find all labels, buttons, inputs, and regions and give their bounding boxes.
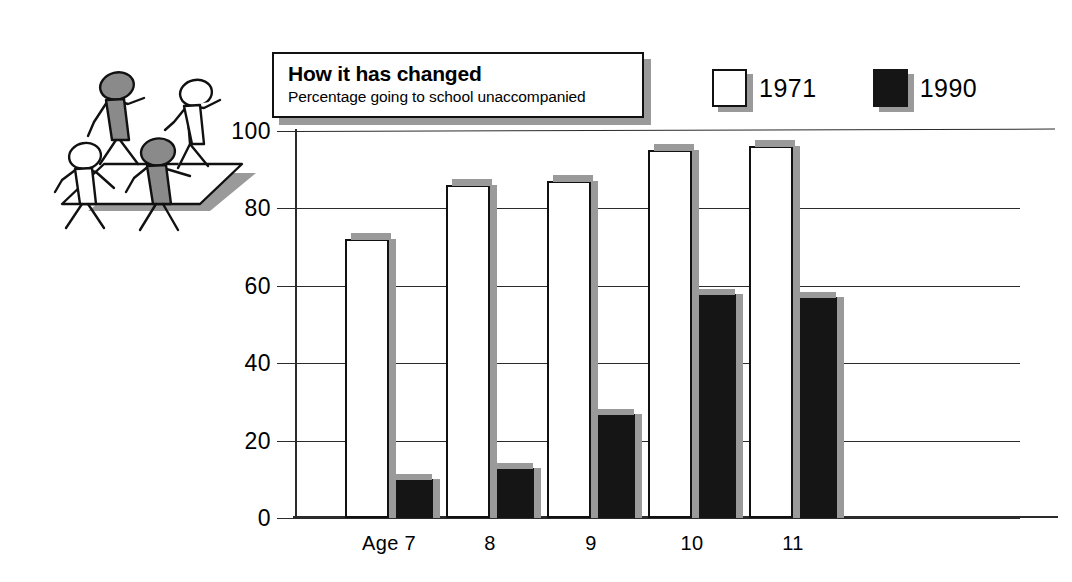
bar-1971-8 <box>446 185 490 518</box>
bar-1990-8 <box>490 468 534 518</box>
bar-1971-age-7 <box>345 239 389 518</box>
legend-swatch-white-square <box>712 69 747 107</box>
y-axis-line <box>295 129 297 519</box>
chart-figure: How it has changed Percentage going to s… <box>0 0 1072 582</box>
chart-subtitle: Percentage going to school unaccompanied <box>288 86 628 107</box>
legend: 1971 1990 <box>712 62 977 114</box>
bar-1971-11 <box>749 146 793 518</box>
y-tick-label-40: 40 <box>244 350 271 377</box>
y-tick-label-0: 0 <box>258 505 271 532</box>
legend-item-1990: 1990 <box>873 69 978 107</box>
bar-1990-9 <box>591 414 635 518</box>
y-tick-60 <box>277 286 295 287</box>
bar-1990-10 <box>692 294 736 518</box>
plot-inner: 020406080100 Age 7891011 <box>295 131 1020 518</box>
gridline-100 <box>295 129 1055 132</box>
x-tick-label-3: 10 <box>681 532 704 555</box>
legend-label-1990: 1990 <box>920 76 978 101</box>
y-tick-label-100: 100 <box>231 118 271 145</box>
y-tick-0 <box>277 518 295 519</box>
illustration-svg <box>52 52 257 237</box>
plot-area: 020406080100 Age 7891011 <box>295 131 1020 518</box>
y-tick-label-80: 80 <box>244 195 271 222</box>
y-tick-100 <box>277 131 295 132</box>
y-tick-20 <box>277 441 295 442</box>
x-tick-label-1: 8 <box>484 532 495 555</box>
chart-title: How it has changed <box>288 61 628 86</box>
x-tick-label-0: Age 7 <box>362 532 416 555</box>
y-tick-label-20: 20 <box>244 427 271 454</box>
y-tick-80 <box>277 208 295 209</box>
legend-label-1971: 1971 <box>759 76 817 101</box>
x-tick-label-4: 11 <box>782 532 803 555</box>
legend-item-1971: 1971 <box>712 69 817 107</box>
bar-1971-10 <box>648 150 692 518</box>
legend-swatch-black-square <box>873 69 908 107</box>
bar-1971-9 <box>547 181 591 518</box>
bar-1990-11 <box>793 297 837 518</box>
gridline-0 <box>295 518 1020 519</box>
y-tick-40 <box>277 363 295 364</box>
bar-1990-age-7 <box>389 479 433 518</box>
caption-box: How it has changed Percentage going to s… <box>272 52 644 118</box>
x-tick-label-2: 9 <box>585 532 596 555</box>
y-tick-label-60: 60 <box>244 272 271 299</box>
children-walking-illustration <box>52 52 257 237</box>
